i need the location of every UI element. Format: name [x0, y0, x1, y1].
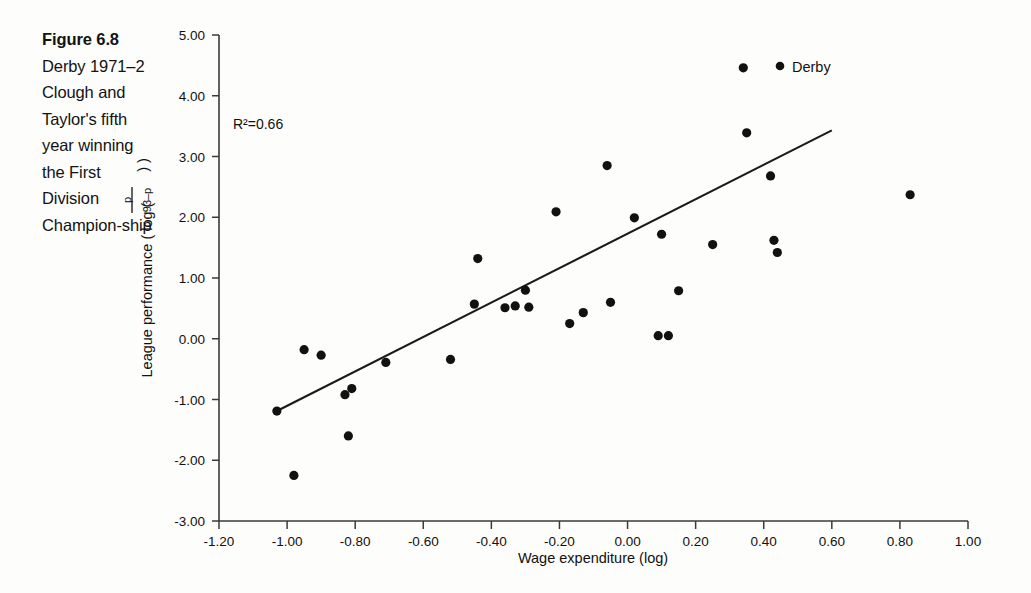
x-tick-label: 0.40 — [751, 534, 777, 549]
y-axis-title-suffix: ) ) — [135, 158, 151, 172]
x-tick-label: -1.20 — [204, 534, 235, 549]
data-points — [272, 63, 914, 480]
data-point — [630, 213, 639, 222]
x-tick-label: 0.00 — [614, 534, 640, 549]
y-tick-label: 0.00 — [179, 332, 205, 347]
y-axis-title: League performance ( log ( — [139, 202, 155, 377]
x-tick-label: 0.60 — [819, 534, 845, 549]
data-point — [565, 319, 574, 328]
data-point — [381, 358, 390, 367]
x-axis-title: Wage expenditure (log) — [518, 550, 668, 566]
trend-line — [277, 130, 832, 411]
data-point — [524, 303, 533, 312]
y-axis-ticks: 5.004.003.002.001.000.00-1.00-2.00-3.00 — [174, 28, 219, 529]
data-point — [347, 384, 356, 393]
scatter-chart: 5.004.003.002.001.000.00-1.00-2.00-3.00 … — [0, 0, 1031, 593]
data-point — [739, 63, 748, 72]
y-tick-label: 4.00 — [179, 89, 205, 104]
data-point — [769, 236, 778, 245]
data-point — [470, 300, 479, 309]
x-tick-label: 0.20 — [682, 534, 708, 549]
y-axis-title-prefix: League performance ( log ( — [139, 202, 155, 377]
data-point — [674, 286, 683, 295]
y-axis-fraction: p 93–p — [121, 187, 153, 213]
data-point — [603, 161, 612, 170]
y-tick-label: -3.00 — [174, 514, 205, 529]
x-tick-label: -0.40 — [476, 534, 507, 549]
y-tick-label: 2.00 — [179, 210, 205, 225]
figure-container: Figure 6.8 Derby 1971–2 Clough and Taylo… — [0, 0, 1031, 593]
r-squared-annotation: R²=0.66 — [233, 116, 283, 132]
y-tick-label: 1.00 — [179, 271, 205, 286]
derby-point-label: Derby — [792, 59, 831, 75]
data-point — [606, 298, 615, 307]
data-point — [473, 254, 482, 263]
y-axis-title-text: League performance ( log ( — [139, 202, 155, 377]
data-point — [742, 128, 751, 137]
x-tick-label: -0.20 — [544, 534, 575, 549]
data-point — [289, 471, 298, 480]
chart-svg: 5.004.003.002.001.000.00-1.00-2.00-3.00 … — [0, 0, 1031, 593]
y-tick-label: 3.00 — [179, 150, 205, 165]
x-tick-label: 0.80 — [887, 534, 913, 549]
data-point — [664, 331, 673, 340]
data-point — [521, 286, 530, 295]
data-point — [708, 240, 717, 249]
x-axis-ticks: -1.20-1.00-0.80-0.60-0.40-0.200.000.200.… — [204, 521, 982, 549]
y-tick-label: -2.00 — [174, 453, 205, 468]
data-point — [300, 345, 309, 354]
data-point — [344, 431, 353, 440]
y-axis-fraction-denominator: 93–p — [141, 188, 153, 212]
data-point — [654, 331, 663, 340]
data-point — [766, 171, 775, 180]
data-point — [906, 190, 915, 199]
y-axis-title-suffix-group: ) ) — [135, 158, 151, 172]
data-point — [272, 406, 281, 415]
data-point — [511, 301, 520, 310]
x-tick-label: -1.00 — [272, 534, 303, 549]
y-axis-fraction-numerator: p — [121, 197, 133, 203]
data-point — [500, 303, 509, 312]
y-tick-label: 5.00 — [179, 28, 205, 43]
y-tick-label: -1.00 — [174, 393, 205, 408]
data-point — [551, 207, 560, 216]
x-tick-label: -0.80 — [340, 534, 371, 549]
derby-point-marker — [776, 62, 785, 71]
data-point — [446, 355, 455, 364]
x-tick-label: -0.60 — [408, 534, 439, 549]
data-point — [773, 248, 782, 257]
data-point — [579, 308, 588, 317]
data-point — [657, 230, 666, 239]
x-tick-label: 1.00 — [955, 534, 981, 549]
data-point — [317, 351, 326, 360]
